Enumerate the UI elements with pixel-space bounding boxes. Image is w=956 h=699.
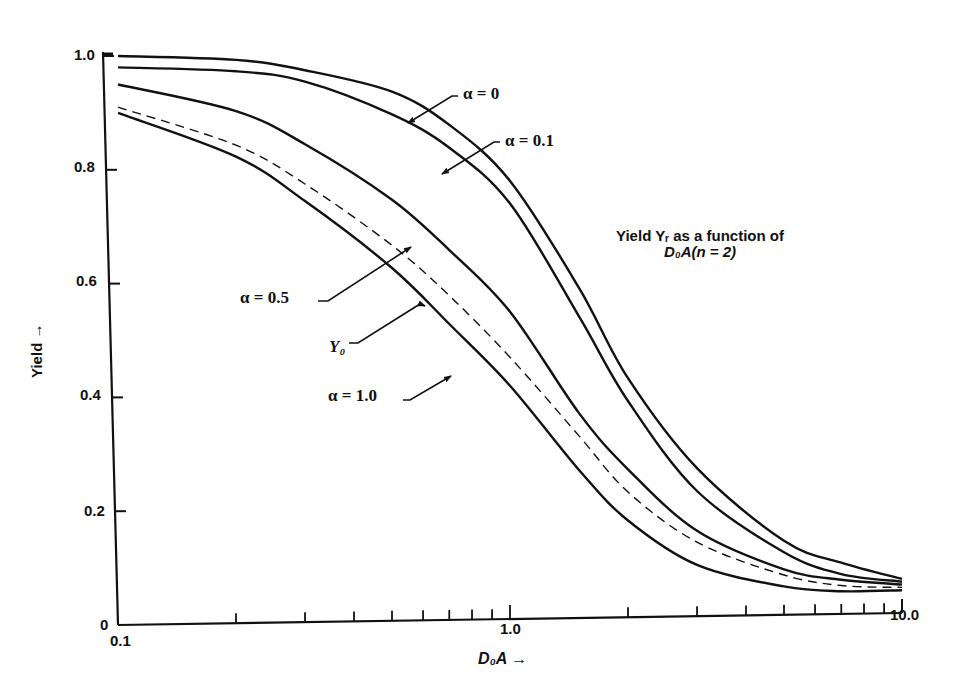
annotation-alpha-0.5: α = 0.5 <box>240 288 289 308</box>
leader-alpha-0.1 <box>442 142 500 174</box>
y-tick-label-0.6: 0.6 <box>76 272 97 289</box>
y-axis-label: Yield → <box>28 324 45 378</box>
x-axis-label: D₀A → <box>478 650 527 668</box>
annotation-alpha-1.0: α = 1.0 <box>328 386 377 406</box>
y-axis-line <box>103 52 118 625</box>
leader-y0 <box>349 304 425 343</box>
chart-title-line-2: D₀A(n = 2) <box>580 244 820 260</box>
leader-alpha-0 <box>408 96 458 123</box>
chart-title-line-1: Yield Yᵣ as a function of <box>580 228 820 244</box>
annotation-alpha-0.1: α = 0.1 <box>505 131 554 151</box>
annotation-alpha-0: α = 0 <box>463 84 499 104</box>
y-tick-label-0: 0 <box>100 616 108 633</box>
y-tick-label-0.8: 0.8 <box>74 158 95 175</box>
chart-title: Yield Yᵣ as a function of D₀A(n = 2) <box>580 228 820 260</box>
y-tick-label-0.4: 0.4 <box>80 386 101 403</box>
curve-0.5 <box>118 85 902 585</box>
annotation-y0: Y₀ <box>329 337 345 357</box>
x-tick-label-0.1: 0.1 <box>110 632 131 649</box>
curve-1.0 <box>118 113 902 591</box>
x-tick-label-10.0: 10.0 <box>890 606 919 623</box>
leader-alpha-1.0 <box>403 376 451 400</box>
y-tick-label-0.2: 0.2 <box>84 502 105 519</box>
x-tick-label-1.0: 1.0 <box>500 620 521 637</box>
yield-chart <box>0 0 956 699</box>
y-tick-label-1.0: 1.0 <box>74 46 95 63</box>
